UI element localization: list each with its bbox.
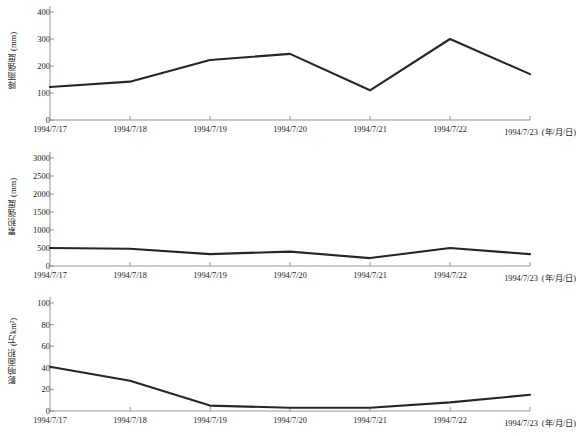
x-tick-label: 1994/7/23(年/月/日) [504, 271, 576, 283]
data-series-line [50, 248, 530, 258]
x-tick-label: 1994/7/17 [33, 125, 67, 134]
x-tick-date: 1994/7/23 [504, 274, 538, 283]
data-series-line [50, 367, 530, 408]
x-tick-label: 1994/7/20 [273, 125, 307, 134]
x-axis-unit-label: (年/月/日) [542, 274, 576, 283]
x-tick-date: 1994/7/23 [504, 128, 538, 137]
x-axis-labels-0: 1994/7/171994/7/181994/7/191994/7/201994… [0, 125, 540, 145]
x-tick-label: 1994/7/18 [113, 125, 147, 134]
x-axis-labels-1: 1994/7/171994/7/181994/7/191994/7/201994… [0, 271, 540, 291]
x-tick-label: 1994/7/21 [353, 416, 387, 425]
x-tick-label: 1994/7/21 [353, 271, 387, 280]
x-tick-label: 1994/7/21 [353, 125, 387, 134]
x-tick-label: 1994/7/17 [33, 416, 67, 425]
x-tick-label: 1994/7/19 [193, 271, 227, 280]
x-tick-label: 1994/7/18 [113, 271, 147, 280]
chart-panel-0: 降雨强度 (mm)0100200300400 [0, 0, 540, 145]
chart-panel-2: 影响面积 (万km²)020406080100 [0, 291, 540, 436]
x-tick-label: 1994/7/22 [433, 271, 467, 280]
plot-area-1 [0, 146, 540, 291]
x-tick-date: 1994/7/23 [504, 419, 538, 428]
x-tick-label: 1994/7/17 [33, 271, 67, 280]
x-tick-label: 1994/7/23(年/月/日) [504, 416, 576, 428]
data-series-line [50, 39, 530, 90]
x-axis-unit-label: (年/月/日) [542, 128, 576, 137]
x-tick-label: 1994/7/19 [193, 125, 227, 134]
x-tick-label: 1994/7/22 [433, 125, 467, 134]
x-tick-label: 1994/7/19 [193, 416, 227, 425]
x-axis-unit-label: (年/月/日) [542, 419, 576, 428]
x-tick-label: 1994/7/23(年/月/日) [504, 125, 576, 137]
x-tick-label: 1994/7/22 [433, 416, 467, 425]
x-tick-label: 1994/7/20 [273, 271, 307, 280]
x-tick-label: 1994/7/20 [273, 416, 307, 425]
x-axis-labels-2: 1994/7/171994/7/181994/7/191994/7/201994… [0, 416, 540, 436]
plot-area-2 [0, 291, 540, 436]
chart-panel-1: 累积强度 (mm)050010001500200025003000 [0, 146, 540, 291]
x-tick-label: 1994/7/18 [113, 416, 147, 425]
plot-area-0 [0, 0, 540, 145]
